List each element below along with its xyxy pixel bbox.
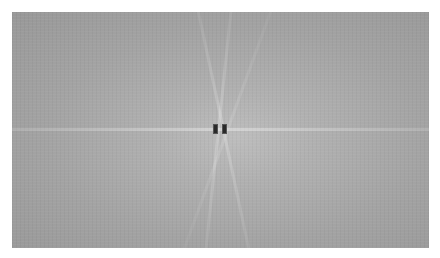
pause-bar-right xyxy=(222,124,227,134)
pause-icon[interactable] xyxy=(211,123,229,136)
pause-bar-left xyxy=(213,124,218,134)
video-player[interactable] xyxy=(12,12,429,248)
